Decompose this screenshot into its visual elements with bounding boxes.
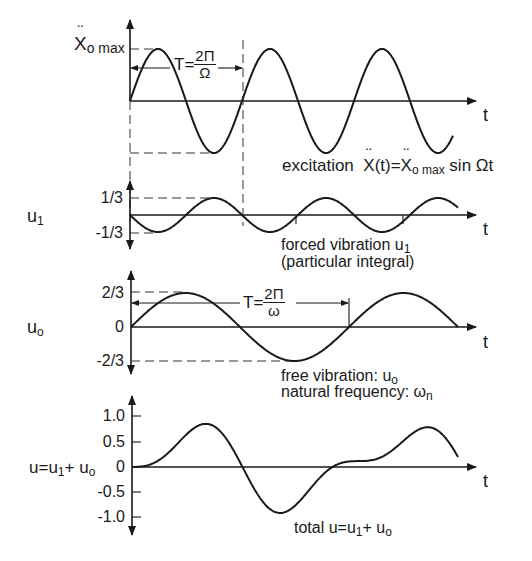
uo-tick-label-zero: 0: [64, 319, 124, 335]
excitation-t-label: t: [483, 106, 488, 124]
excitation-y-label: Xo max: [74, 34, 125, 55]
free-caption-text: free vibration:: [281, 367, 382, 384]
total-caption-a-sub: 1: [356, 525, 363, 539]
caption-x-double-dot: X: [363, 157, 374, 174]
total-caption: total u=u1+ uo: [294, 520, 392, 538]
total-panel: [132, 396, 476, 535]
period-prefix: T=: [174, 55, 194, 74]
natural-frequency-text: natural frequency:: [281, 383, 414, 400]
period-fraction: 2ΠΩ: [194, 48, 215, 81]
u1-t-label: t: [483, 220, 488, 238]
period-numerator: 2Π: [194, 48, 215, 65]
uo-period-numerator: 2Π: [263, 286, 284, 303]
u1-tick-label-pos: 1/3: [63, 190, 123, 206]
uo-period-fraction: 2Πω: [263, 286, 284, 319]
y-label-sub: o max: [87, 40, 125, 56]
uo-period-denominator: ω: [263, 303, 284, 319]
uo-tick-label-neg: -2/3: [64, 353, 124, 369]
caption-formula-rhs: sin Ωt: [445, 156, 494, 175]
forced-caption-var: u: [395, 236, 404, 253]
u1-tick-label-neg: -1/3: [63, 225, 123, 241]
omega-sub: n: [426, 389, 433, 403]
u-t-label: t: [483, 472, 488, 490]
uo-period-prefix: T=: [243, 293, 263, 312]
u-tick-label-0: 0: [65, 459, 125, 475]
u1-sub: 1: [37, 214, 44, 228]
u-tick-label-1.0: 1.0: [65, 408, 125, 424]
caption-x-max: X: [401, 157, 412, 174]
excitation-caption: excitation X(t)=Xo max sin Ωt: [282, 157, 493, 176]
caption-formula-mid: (t)=: [375, 156, 401, 175]
u-label-a-sub: 1: [58, 465, 65, 479]
uo-tick-label-pos: 2/3: [64, 285, 124, 301]
forced-caption-text: forced vibration: [281, 236, 395, 253]
u1-main: u: [27, 206, 37, 226]
uo-t-label: t: [483, 333, 488, 351]
total-caption-b-sub: o: [385, 525, 392, 539]
excitation-caption-word: excitation: [282, 156, 354, 175]
u-tick-label--1.0: -1.0: [65, 509, 125, 525]
u-label-a: u=u: [29, 458, 58, 477]
caption-sub: o max: [412, 163, 445, 177]
period-denominator: Ω: [194, 65, 215, 81]
forced-caption-line2: (particular integral): [281, 254, 414, 270]
u-tick-label--0.5: -0.5: [65, 484, 125, 500]
free-caption-line2: natural frequency: ωn: [281, 384, 433, 402]
u1-y-label: u1: [27, 207, 44, 227]
uo-main: u: [27, 317, 37, 337]
total-caption-a: total u=u: [294, 519, 356, 536]
uo-sub: o: [37, 325, 44, 339]
x-double-dot: X: [74, 34, 87, 53]
uo-y-label: uo: [27, 318, 44, 338]
total-caption-b: + u: [363, 519, 386, 536]
free-caption-var: u: [382, 367, 391, 384]
excitation-period-label: T=2ΠΩ: [174, 48, 216, 81]
omega-symbol: ω: [414, 383, 427, 400]
total-curve: [132, 424, 458, 513]
free-panel: [131, 271, 476, 374]
uo-period-label: T=2Πω: [243, 286, 285, 319]
u-tick-label-0.5: 0.5: [65, 434, 125, 450]
